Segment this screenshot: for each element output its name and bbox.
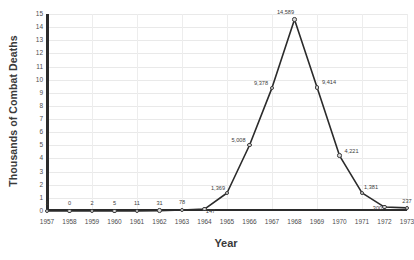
data-point-marker	[45, 209, 49, 213]
x-tick-label: 1968	[287, 219, 301, 226]
y-tick-label: 8	[39, 103, 43, 110]
data-point-label: 237	[402, 199, 411, 205]
series-line	[47, 14, 407, 211]
x-tick-label: 1965	[220, 219, 234, 226]
data-point-label: 300	[373, 206, 382, 212]
data-point-label: 0	[68, 201, 71, 207]
data-point-label: 11	[134, 201, 140, 207]
x-tick-label: 1967	[265, 219, 279, 226]
data-point-marker	[382, 205, 386, 209]
y-tick-label: 10	[36, 76, 43, 83]
y-axis-title: Thousands of Combat Deaths	[2, 0, 24, 222]
x-tick-label: 1960	[107, 219, 121, 226]
y-tick-label: 12	[36, 50, 43, 57]
plot-area: 0123456789101112131415 19571958195919601…	[47, 14, 407, 211]
x-tick-label: 1971	[355, 219, 369, 226]
data-point-label: 147	[206, 209, 215, 215]
x-tick-label: 1972	[377, 219, 391, 226]
data-point-label: 78	[179, 200, 185, 206]
y-tick-label: 9	[39, 90, 43, 97]
combat-deaths-line-chart: Thousands of Combat Deaths 0123456789101…	[0, 0, 414, 260]
y-tick-label: 11	[36, 63, 43, 70]
x-tick-label: 1969	[310, 219, 324, 226]
y-tick-label: 3	[39, 168, 43, 175]
data-point-marker	[180, 208, 184, 212]
x-tick-label: 1966	[242, 219, 256, 226]
y-tick-label: 6	[39, 129, 43, 136]
data-point-marker	[112, 209, 116, 213]
data-point-marker	[135, 209, 139, 213]
data-point-label: 1	[45, 201, 48, 207]
y-tick-label: 14	[36, 24, 43, 31]
data-point-marker	[315, 85, 319, 89]
x-tick-label: 1964	[197, 219, 211, 226]
y-tick-label: 7	[39, 116, 43, 123]
y-axis-title-text: Thousands of Combat Deaths	[7, 35, 19, 186]
x-tick-label: 1963	[175, 219, 189, 226]
data-point-label: 2	[90, 201, 93, 207]
y-tick-label: 1	[39, 195, 43, 202]
x-tick-label: 1961	[130, 219, 144, 226]
x-axis-title: Year	[40, 237, 412, 249]
x-tick-label: 1973	[400, 219, 414, 226]
x-tick-label: 1970	[332, 219, 346, 226]
data-point-marker	[67, 209, 71, 213]
y-tick-label: 5	[39, 142, 43, 149]
data-point-label: 5,008	[232, 139, 246, 145]
data-point-marker	[292, 17, 296, 21]
y-tick-label: 15	[36, 11, 43, 18]
x-tick-label: 1959	[85, 219, 99, 226]
data-point-label: 9,378	[254, 81, 268, 87]
data-point-label: 9,414	[322, 81, 336, 87]
x-tick-label: 1957	[40, 219, 54, 226]
y-tick-label: 13	[36, 37, 43, 44]
y-tick-label: 0	[39, 208, 43, 215]
data-point-marker	[337, 153, 341, 157]
y-tick-label: 4	[39, 155, 43, 162]
data-point-marker	[90, 209, 94, 213]
data-point-label: 14,589	[277, 11, 294, 17]
data-point-label: 4,221	[345, 149, 359, 155]
data-point-marker	[157, 208, 161, 212]
data-point-label: 5	[113, 201, 116, 207]
x-tick-label: 1962	[152, 219, 166, 226]
data-point-label: 1,381	[364, 185, 378, 191]
data-point-marker	[405, 206, 409, 210]
data-point-label: 1,369	[211, 186, 225, 192]
y-tick-label: 2	[39, 181, 43, 188]
gridline-vertical	[407, 14, 408, 211]
x-tick-label: 1958	[62, 219, 76, 226]
data-point-label: 31	[156, 201, 162, 207]
